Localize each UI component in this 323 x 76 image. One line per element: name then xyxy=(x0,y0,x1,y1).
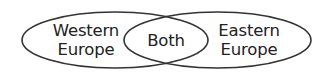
western-europe-label-line-2: Europe xyxy=(46,40,126,59)
eastern-europe-label: Eastern Europe xyxy=(211,21,287,59)
eastern-europe-label-line-1: Eastern xyxy=(211,21,287,40)
intersection-label: Both xyxy=(140,31,192,50)
western-europe-label: Western Europe xyxy=(46,21,126,59)
both-label: Both xyxy=(140,31,192,50)
western-europe-label-line-1: Western xyxy=(46,21,126,40)
eastern-europe-label-line-2: Europe xyxy=(211,40,287,59)
